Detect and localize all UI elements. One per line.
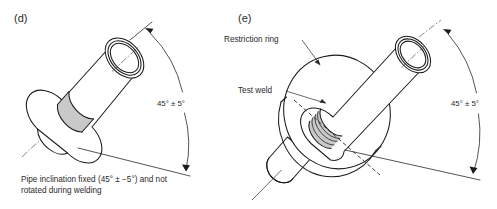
panel-e-dimension-label: 45° ± 5° xyxy=(451,99,479,108)
figure-root: (d) xyxy=(0,0,497,209)
caption-line-2: rotated during welding xyxy=(21,186,102,195)
panel-d-label: (d) xyxy=(14,12,27,24)
caption-line-1: Pipe inclination fixed (45° ± −5°) and n… xyxy=(21,175,168,184)
restriction-ring-label: Restriction ring xyxy=(224,35,279,44)
test-weld-label: Test weld xyxy=(238,86,273,95)
panel-d-dimension-label: 45° ± 5° xyxy=(157,99,185,108)
panel-e-label: (e) xyxy=(238,12,251,24)
